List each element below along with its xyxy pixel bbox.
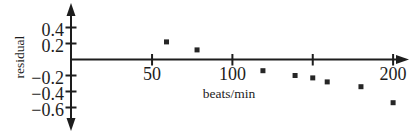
x-axis-title: beats/min <box>203 87 256 101</box>
data-point <box>293 73 298 78</box>
y-tick-label: −0.6 <box>31 100 64 120</box>
plot-canvas: 501002000.40.2−0.2−0.4−0.6 <box>0 0 419 134</box>
data-point <box>358 84 363 89</box>
x-tick-label: 100 <box>219 64 246 84</box>
x-tick-label: 200 <box>380 64 407 84</box>
y-tick-label: 0.2 <box>42 36 65 56</box>
data-point <box>260 68 265 73</box>
data-point <box>391 100 396 105</box>
residual-plot-figure: 501002000.40.2−0.2−0.4−0.6 residual beat… <box>0 0 419 134</box>
data-point <box>310 75 315 80</box>
x-tick-label: 50 <box>143 64 161 84</box>
data-point <box>195 47 200 52</box>
data-point <box>325 79 330 84</box>
data-point <box>164 39 169 44</box>
y-axis-bottom-arrowhead <box>67 118 76 131</box>
y-axis-top-arrowhead <box>67 3 76 16</box>
y-axis-title: residual <box>13 36 27 79</box>
